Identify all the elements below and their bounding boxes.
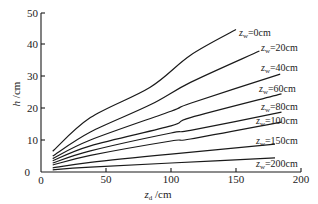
curve-z-w-60cm: [53, 94, 282, 161]
y-tick-labels: 0 10 20 30 40 50: [25, 7, 39, 178]
series-label-60cm: zw=60cm: [258, 83, 296, 96]
x-axis-title: zd /cm: [143, 188, 171, 202]
series-label-100cm: zw=100cm: [255, 115, 298, 128]
x-tick-labels: 0 50 100 150 200: [38, 173, 310, 186]
x-tick-label: 200: [293, 173, 310, 185]
series-label-20cm: zw=20cm: [260, 42, 298, 55]
curve-z-w-100cm: [53, 122, 282, 165]
series-label-200cm: zw=200cm: [255, 158, 298, 171]
curve-z-w-20cm: [53, 51, 260, 156]
y-tick-label: 10: [27, 134, 39, 146]
curve-z-w-40cm: [53, 74, 281, 159]
y-axis-title: h /cm: [10, 81, 22, 106]
series-label-150cm: zw=150cm: [255, 135, 298, 148]
series-label-0cm: zw=0cm: [238, 27, 271, 40]
series-labels: zw=0cm zw=20cm zw=40cm zw=60cm zw=80cm z…: [238, 27, 298, 171]
line-chart: 0 10 20 30 40 50 0 50 100 150 200 zd /cm…: [0, 0, 318, 204]
y-tick-label: 40: [27, 38, 39, 50]
y-tick-label: 20: [27, 102, 39, 114]
y-tick-label: 0: [25, 166, 31, 178]
x-tick-label: 150: [228, 173, 245, 185]
x-tick-label: 0: [38, 174, 44, 186]
y-tick-label: 50: [27, 7, 39, 19]
curve-z-w-200cm: [53, 158, 275, 170]
x-tick-label: 50: [101, 173, 113, 185]
y-tick-label: 30: [27, 70, 39, 82]
x-tick-label: 100: [163, 173, 180, 185]
curves: [53, 30, 282, 170]
series-label-40cm: zw=40cm: [260, 62, 298, 75]
series-label-80cm: zw=80cm: [260, 101, 298, 114]
